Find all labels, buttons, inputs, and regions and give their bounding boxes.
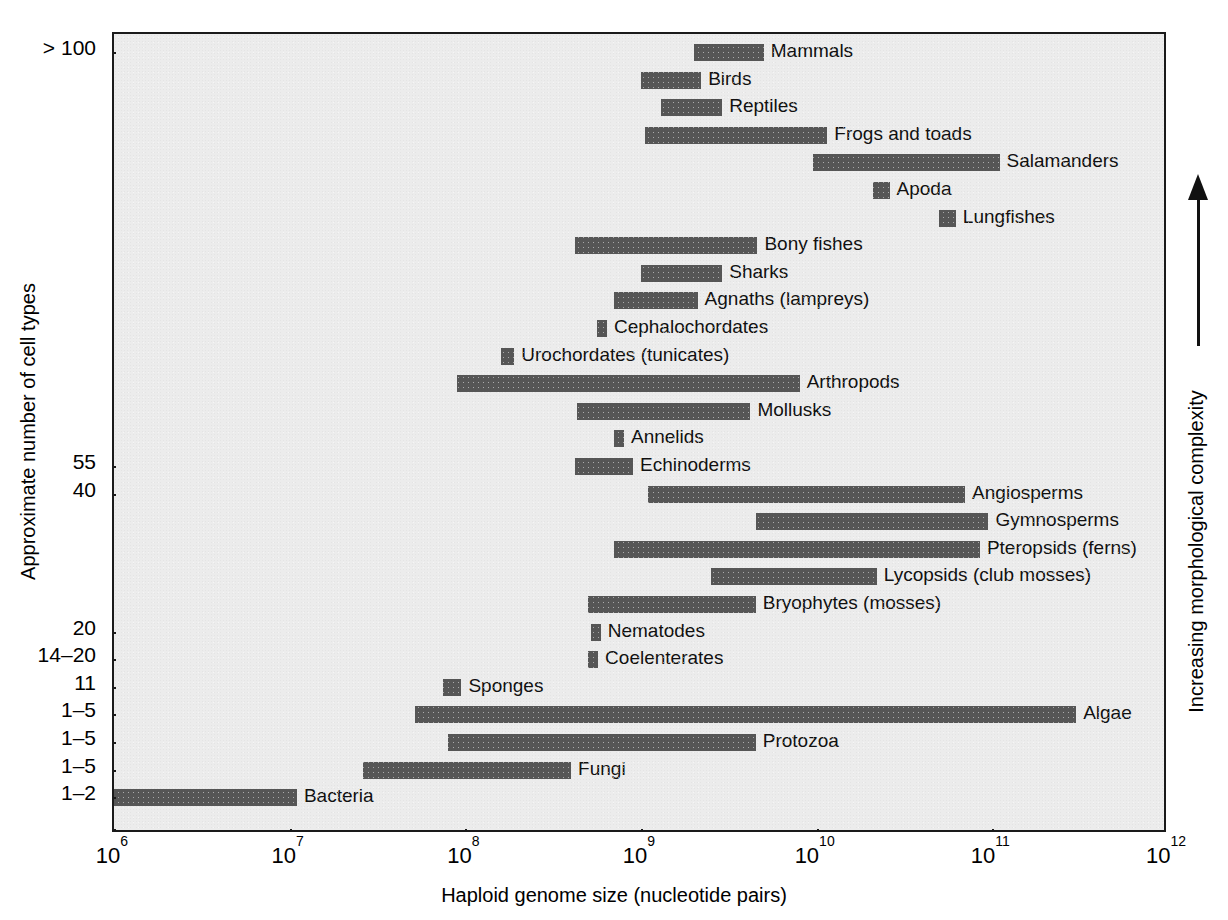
range-bar [112, 789, 297, 806]
x-tick-mark [465, 829, 467, 832]
y-tick-label: 1–2 [61, 781, 96, 805]
x-tick-mark [114, 829, 116, 832]
x-tick-exponent: 8 [472, 833, 480, 849]
range-bar [614, 292, 698, 309]
x-tick-mark [817, 829, 819, 832]
range-bar [756, 513, 989, 530]
x-tick-exponent: 6 [120, 833, 128, 849]
range-bar [711, 568, 877, 585]
x-tick-mantissa: 10 [1146, 843, 1170, 868]
range-bar [939, 210, 955, 227]
range-bar [501, 348, 514, 365]
range-bar [641, 72, 701, 89]
x-tick-label: 1011 [971, 842, 1010, 869]
x-tick-label: 109 [623, 842, 655, 869]
x-tick-mark [992, 829, 994, 832]
x-tick-mantissa: 10 [96, 843, 120, 868]
range-bar [694, 44, 764, 61]
y-tick-mark [112, 770, 116, 772]
range-bar [588, 651, 598, 668]
bar-label: Gymnosperms [995, 511, 1119, 528]
range-bar [363, 762, 572, 779]
range-bar [661, 99, 722, 116]
x-axis-title: Haploid genome size (nucleotide pairs) [0, 884, 1228, 907]
bar-label: Algae [1083, 704, 1132, 721]
x-tick-label: 1012 [1146, 842, 1186, 869]
range-bar [577, 403, 751, 420]
range-bar [614, 430, 624, 447]
range-bar [457, 375, 799, 392]
complexity-axis: Increasing morphological complexity [1178, 160, 1218, 760]
range-bar [645, 127, 828, 144]
range-bar [591, 624, 601, 641]
bar-label: Bacteria [304, 787, 374, 804]
bar-label: Bony fishes [764, 235, 862, 252]
plot-area: MammalsBirdsReptilesFrogs and toadsSalam… [112, 32, 1166, 832]
y-tick-mark [112, 494, 116, 496]
range-bar [448, 734, 755, 751]
bar-label: Apoda [897, 180, 952, 197]
bar-label: Protozoa [763, 732, 839, 749]
bar-label: Bryophytes (mosses) [763, 594, 941, 611]
range-bar [873, 182, 889, 199]
x-tick-label: 107 [272, 842, 304, 869]
y-tick-mark [112, 659, 116, 661]
y-tick-label: 11 [74, 671, 96, 695]
bar-label: Annelids [631, 428, 704, 445]
y-tick-label: 40 [73, 478, 96, 502]
y-tick-label: 1–5 [61, 726, 96, 750]
y-tick-mark [112, 466, 116, 468]
x-tick-mantissa: 10 [971, 843, 995, 868]
bar-label: Birds [708, 70, 751, 87]
bar-label: Fungi [578, 760, 626, 777]
bar-label: Mammals [771, 42, 853, 59]
y-tick-mark [112, 714, 116, 716]
range-bar [648, 486, 965, 503]
x-tick-mark [641, 829, 643, 832]
range-bar [588, 596, 756, 613]
y-tick-mark [112, 797, 116, 799]
range-bar [813, 154, 1000, 171]
y-tick-label: 20 [73, 616, 96, 640]
y-tick-label: 14–20 [38, 643, 96, 667]
bar-label: Echinoderms [640, 456, 751, 473]
chart-figure: Approximate number of cell types Mammals… [0, 0, 1228, 920]
range-bar [641, 265, 722, 282]
bar-label: Nematodes [608, 622, 705, 639]
range-bar [443, 679, 461, 696]
x-tick-label: 108 [447, 842, 479, 869]
y-tick-mark [112, 742, 116, 744]
bar-label: Urochordates (tunicates) [521, 346, 729, 363]
x-tick-exponent: 12 [1170, 833, 1186, 849]
y-tick-label: 1–5 [61, 698, 96, 722]
range-bar [597, 320, 607, 337]
y-tick-label: 1–5 [61, 754, 96, 778]
bar-label: Coelenterates [605, 649, 723, 666]
x-tick-mantissa: 10 [447, 843, 471, 868]
bar-label: Lycopsids (club mosses) [884, 566, 1091, 583]
x-tick-mantissa: 10 [795, 843, 819, 868]
bar-label: Frogs and toads [834, 125, 971, 142]
x-tick-mantissa: 10 [623, 843, 647, 868]
bar-label: Salamanders [1007, 152, 1119, 169]
bar-label: Cephalochordates [614, 318, 768, 335]
bar-label: Angiosperms [972, 484, 1083, 501]
bar-label: Lungfishes [963, 208, 1055, 225]
y-tick-mark [112, 687, 116, 689]
bar-label: Sponges [468, 677, 543, 694]
range-bar [614, 541, 980, 558]
bar-label: Reptiles [729, 97, 798, 114]
x-tick-exponent: 10 [819, 833, 835, 849]
x-tick-exponent: 11 [995, 833, 1010, 849]
bar-label: Arthropods [807, 373, 900, 390]
range-bar [575, 237, 758, 254]
x-tick-mark [290, 829, 292, 832]
x-tick-label: 106 [96, 842, 128, 869]
y-axis-title: Approximate number of cell types [17, 112, 40, 752]
bar-label: Mollusks [757, 401, 831, 418]
y-tick-mark [112, 632, 116, 634]
range-bar [575, 458, 633, 475]
x-tick-exponent: 7 [296, 833, 304, 849]
y-tick-label: > 100 [43, 36, 96, 60]
x-tick-label: 1010 [795, 842, 835, 869]
